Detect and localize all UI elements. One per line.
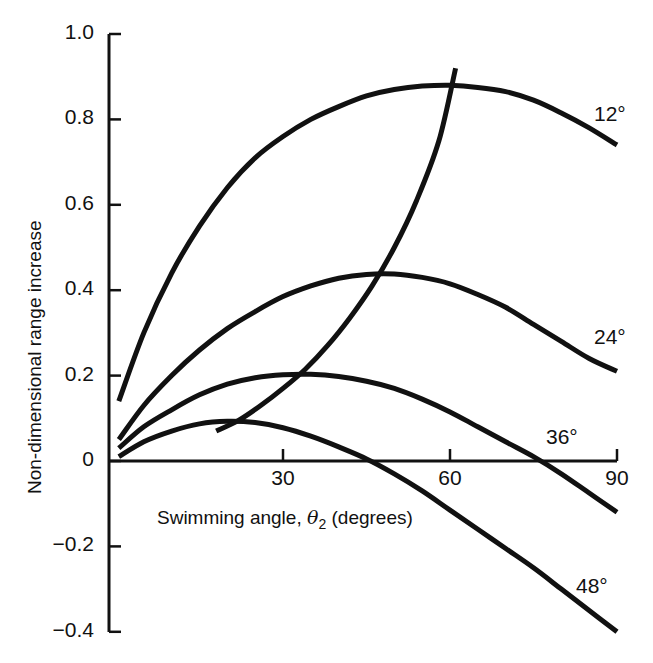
y-tick-label: −0.2 [24,532,94,556]
x-tick-label: 60 [425,466,475,490]
curve-24 [119,274,617,440]
x-axis-label-prefix: Swimming angle, [157,507,307,528]
x-axis-label: Swimming angle, θ2 (degrees) [157,506,413,532]
y-ticks [109,34,121,632]
chart-canvas [0,0,653,663]
theta-symbol: θ [307,506,318,528]
curve-36 [119,374,617,512]
curve-label-36: 36° [546,425,578,449]
curve-label-24: 24° [594,325,626,349]
x-tick-label: 90 [592,466,642,490]
y-tick-label: 1.0 [24,20,94,44]
y-tick-label: 0.6 [24,191,94,215]
axes [109,34,617,632]
y-axis-label: Non-dimensional range increase [24,220,46,494]
y-tick-label: −0.4 [24,618,94,642]
curve-label-12: 12° [594,102,626,126]
x-axis-label-suffix: (degrees) [326,507,413,528]
x-ticks [283,449,617,461]
curves [119,68,617,632]
x-tick-label: 30 [258,466,308,490]
y-tick-label: 0.8 [24,105,94,129]
curve-label-48: 48° [576,574,608,598]
